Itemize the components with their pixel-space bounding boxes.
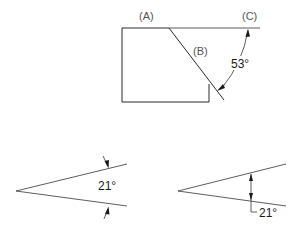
bottom-right-figure: 21° bbox=[178, 164, 286, 220]
label-b: (B) bbox=[193, 45, 208, 57]
top-figure: (A) (B) (C) 53° bbox=[122, 10, 260, 102]
label-a: (A) bbox=[139, 10, 154, 22]
lower-leg-line bbox=[16, 191, 127, 206]
arrowhead-top-icon bbox=[246, 29, 251, 37]
bottom-left-figure: 21° bbox=[16, 156, 127, 219]
angle-value-21-right: 21° bbox=[259, 206, 277, 220]
angle-value-53: 53° bbox=[231, 57, 249, 71]
block-outline bbox=[122, 28, 209, 102]
arrowhead-down-icon bbox=[249, 193, 253, 201]
arrowhead-up-icon bbox=[249, 174, 253, 182]
drawing-canvas: (A) (B) (C) 53° 21° 21° bbox=[0, 0, 298, 240]
lower-leg-line bbox=[178, 191, 286, 206]
chamfer-line-b bbox=[169, 28, 224, 100]
arrowhead-bottom-icon bbox=[217, 84, 225, 91]
arrowhead-upper-icon bbox=[105, 160, 110, 169]
angle-value-21-left: 21° bbox=[98, 179, 116, 193]
arrowhead-lower-icon bbox=[105, 207, 110, 215]
upper-leg-line bbox=[178, 164, 286, 191]
label-c: (C) bbox=[242, 10, 257, 22]
